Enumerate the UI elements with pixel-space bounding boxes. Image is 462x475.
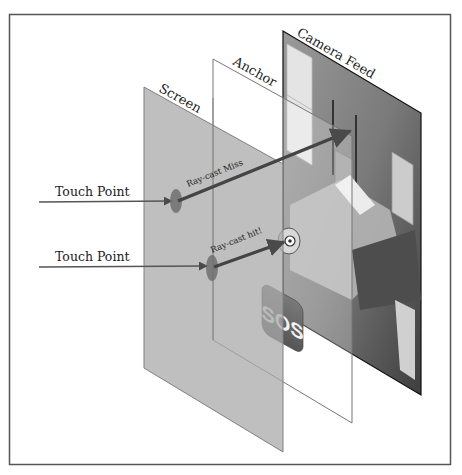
- touch-arrow-2: [39, 266, 207, 267]
- touch-point-label-2: Touch Point: [55, 249, 129, 264]
- touch-point-label-1: Touch Point: [55, 184, 129, 199]
- touch-arrow-1: [39, 201, 172, 202]
- touch-marker-2: [206, 255, 218, 281]
- ar-raycast-diagram: SOS Screen Anchor Camera Feed Touch Poin…: [0, 0, 462, 475]
